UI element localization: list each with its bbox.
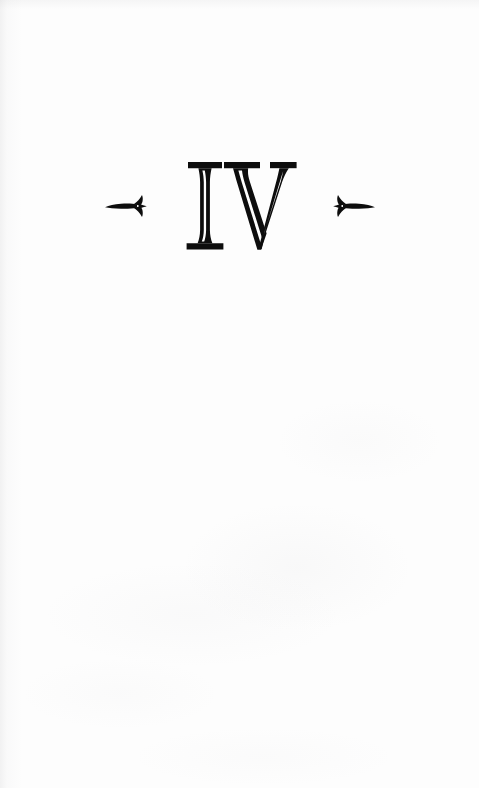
chapter-numeral (186, 160, 298, 252)
arrow-right-ornament (104, 193, 148, 219)
chapter-number-ornament (0, 152, 479, 260)
arrow-left-ornament (332, 193, 376, 219)
book-page (0, 0, 479, 788)
